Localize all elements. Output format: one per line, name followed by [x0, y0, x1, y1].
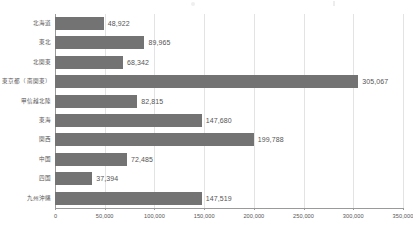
bar-rows: 48,92289,96568,342305,06782,815147,68019…	[55, 14, 403, 208]
bar-row: 305,067	[55, 72, 403, 91]
bar-row: 89,965	[55, 33, 403, 52]
x-tick-label: 150,000	[194, 212, 215, 220]
bar-value-label: 48,922	[108, 17, 130, 30]
tick-mark	[353, 208, 354, 210]
x-tick-label: 250,000	[293, 212, 314, 220]
category-label-text: 東海	[0, 111, 51, 130]
category-axis-labels: 北海道東北北関東東京都（南関東）甲信越北陸東海関西中国四国九州沖縄	[0, 14, 53, 208]
category-label-5: 甲信越北陸	[0, 92, 51, 111]
bar-row: 37,394	[55, 169, 403, 188]
category-label-text: 甲信越北陸	[0, 92, 51, 111]
category-label-6: 東海	[0, 111, 51, 130]
bar-value-label: 305,067	[362, 75, 388, 88]
bar-row: 48,922	[55, 14, 403, 33]
category-label-text: 北海道	[0, 14, 51, 33]
x-tick-label: 350,000	[393, 212, 413, 220]
bar[interactable]	[55, 133, 254, 146]
category-label-text: 中国	[0, 150, 51, 169]
bar-value-label: 89,965	[148, 36, 170, 49]
tick-mark	[304, 208, 305, 210]
category-label-3: 北関東	[0, 53, 51, 72]
bar-value-label: 68,342	[127, 56, 149, 69]
category-label-4: 東京都（南関東）	[0, 72, 51, 91]
bar-value-label: 147,680	[206, 114, 232, 127]
bar-row: 199,788	[55, 130, 403, 149]
bar[interactable]	[55, 192, 202, 205]
bar-row: 72,485	[55, 150, 403, 169]
x-tick-label: 200,000	[243, 212, 264, 220]
category-label-1: 北海道	[0, 14, 51, 33]
category-label-7: 関西	[0, 130, 51, 149]
bar[interactable]	[55, 56, 123, 69]
x-axis-line	[55, 208, 403, 209]
bar-row: 82,815	[55, 92, 403, 111]
bar-value-label: 82,815	[141, 95, 163, 108]
x-axis-ticks: 050,000100,000150,000200,000250,000300,0…	[55, 210, 403, 224]
tick-mark	[254, 208, 255, 210]
category-label-text: 関西	[0, 130, 51, 149]
bar[interactable]	[55, 75, 358, 88]
bar-value-label: 147,519	[206, 192, 232, 205]
top-artifact-tick	[333, 1, 335, 6]
x-tick-label: 50,000	[96, 212, 114, 220]
x-tick-label: 300,000	[343, 212, 364, 220]
bar-value-label: 199,788	[258, 133, 284, 146]
bar-row: 147,680	[55, 111, 403, 130]
category-label-text: 九州沖縄	[0, 189, 51, 208]
category-label-text: 東京都（南関東）	[0, 72, 51, 91]
plot-area: 48,92289,96568,342305,06782,815147,68019…	[55, 14, 403, 208]
x-tick-label: 100,000	[144, 212, 165, 220]
tick-mark	[105, 208, 106, 210]
bar[interactable]	[55, 172, 92, 185]
bar[interactable]	[55, 114, 202, 127]
bar-value-label: 37,394	[96, 172, 118, 185]
bar-row: 68,342	[55, 53, 403, 72]
category-label-2: 東北	[0, 33, 51, 52]
category-label-10: 九州沖縄	[0, 189, 51, 208]
tick-mark	[204, 208, 205, 210]
gridline-350000	[403, 14, 404, 208]
top-artifact-dot	[191, 2, 195, 6]
tick-mark	[154, 208, 155, 210]
category-label-text: 東北	[0, 33, 51, 52]
tick-mark	[55, 208, 56, 210]
tick-mark	[403, 208, 404, 210]
bar[interactable]	[55, 36, 144, 49]
bar[interactable]	[55, 153, 127, 166]
category-label-text: 北関東	[0, 53, 51, 72]
bar[interactable]	[55, 17, 104, 30]
category-label-text: 四国	[0, 169, 51, 188]
category-label-9: 四国	[0, 169, 51, 188]
bar-row: 147,519	[55, 189, 403, 208]
bar[interactable]	[55, 95, 137, 108]
bar-value-label: 72,485	[131, 153, 153, 166]
x-tick-label: 0	[54, 212, 57, 220]
category-label-8: 中国	[0, 150, 51, 169]
